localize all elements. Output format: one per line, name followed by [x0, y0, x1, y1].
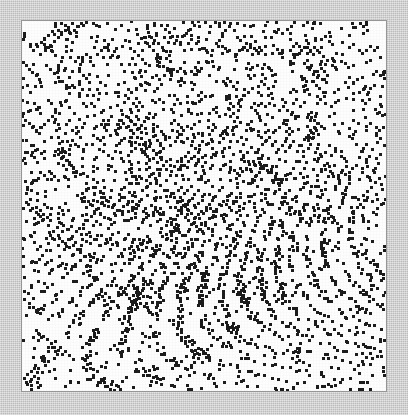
figure-container	[0, 0, 408, 415]
scatter-plot-panel	[22, 21, 386, 391]
scatter-points-canvas	[22, 21, 386, 391]
